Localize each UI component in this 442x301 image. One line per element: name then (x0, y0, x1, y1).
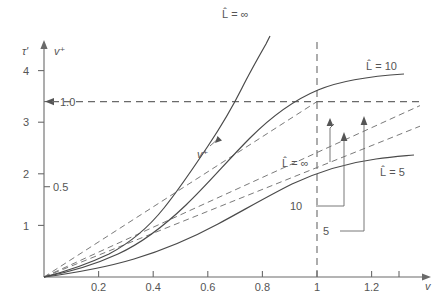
curve-label-L-infinity: L̂ = ∞ (222, 7, 249, 20)
curve-label-L-10: L̂ = 10 (366, 59, 397, 72)
callout-infinity-arrowhead (327, 118, 334, 126)
y-ticklabel-4: 4 (23, 65, 29, 77)
y-ticklabel-2: 2 (23, 168, 29, 180)
callout-infinity-group: L̂ = ∞ (282, 118, 334, 169)
y-ticklabel-3: 3 (23, 116, 29, 128)
x-axis-ticks: 0.2 0.4 0.6 0.8 1 1.2 (91, 271, 399, 293)
y-axis-secondary-ticks: 0.5 1.0 (44, 96, 75, 193)
x-ticklabel-10: 1 (314, 281, 320, 293)
callout-vplus-label: v⁺ (197, 148, 209, 160)
x-axis-label-v: v (425, 280, 432, 292)
callout-vplus-arrowhead (215, 136, 222, 143)
y-axis-label-tau: τ' (22, 45, 29, 57)
callout-infinity-leader (330, 124, 334, 162)
y-ticklabel-1: 1 (23, 220, 29, 232)
callout-vplus-group: v⁺ (197, 136, 222, 160)
chart-svg: 1 2 3 4 0.5 1.0 τ' v⁺ v 0.2 0.4 0.6 0.8 … (0, 0, 442, 301)
y-axis-ticks: 1 2 3 4 (23, 65, 44, 232)
x-ticklabel-04: 0.4 (146, 281, 161, 293)
callout-infinity-label: L̂ = ∞ (282, 156, 309, 169)
axes-group (40, 40, 431, 281)
callout-5-arrowhead (361, 116, 368, 125)
curve-label-L-5: L̂ = 5 (380, 165, 405, 178)
x-ticklabel-06: 0.6 (200, 281, 215, 293)
x-ticklabel-08: 0.8 (255, 281, 270, 293)
callout-10-label: 10 (290, 200, 302, 212)
x-ticklabel-02: 0.2 (91, 281, 106, 293)
callout-5-label: 5 (323, 225, 329, 237)
x-ticklabel-12: 1.2 (364, 281, 379, 293)
callout-10-group: 10 (290, 132, 348, 212)
callout-10-arrowhead (341, 132, 348, 141)
y-axis-arrowhead (40, 40, 47, 49)
y2-ticklabel-05: 0.5 (53, 181, 68, 193)
chart-figure: 1 2 3 4 0.5 1.0 τ' v⁺ v 0.2 0.4 0.6 0.8 … (0, 0, 442, 301)
asymptote-line-vplus (44, 102, 317, 277)
curve-L-infinity (44, 36, 270, 277)
y-axis-label-vplus: v⁺ (54, 45, 66, 57)
curve-L-10 (44, 74, 404, 277)
